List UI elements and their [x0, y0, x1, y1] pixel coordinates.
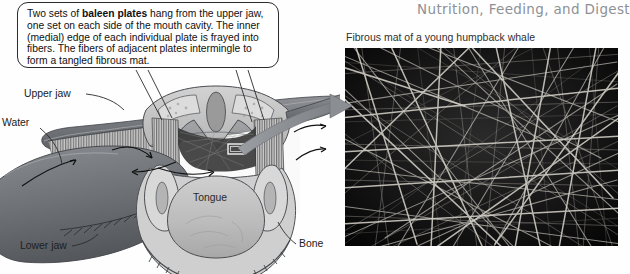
- label-tongue: Tongue: [193, 192, 227, 203]
- label-upper-jaw: Upper jaw: [24, 88, 71, 99]
- label-lower-jaw: Lower jaw: [20, 240, 67, 251]
- tongue-shape: [167, 176, 264, 258]
- callout-text: Two sets of baleen plates hang from the …: [27, 8, 269, 67]
- label-water: Water: [2, 117, 29, 128]
- baleen-plates-callout: Two sets of baleen plates hang from the …: [17, 2, 279, 68]
- textbook-figure-page: Nutrition, Feeding, and Digest Fibrous m…: [0, 0, 630, 274]
- callout-bold-term: baleen plates: [82, 8, 147, 19]
- label-bone: Bone: [299, 238, 323, 249]
- callout-text-before: Two sets of: [27, 8, 82, 19]
